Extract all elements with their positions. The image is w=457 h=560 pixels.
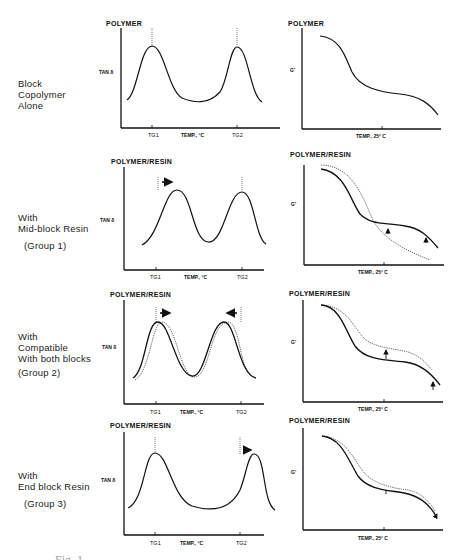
plot-title: POLYMER/RESIN <box>110 291 171 298</box>
y-axis-label: G' <box>291 201 296 207</box>
tick-label-tg1: TG1 <box>148 132 159 138</box>
figure-canvas: POLYMER TAN δ TG1 TEMP., °C TG2 POLYMER … <box>0 0 457 560</box>
x-axis-label: TEMP., °C <box>180 409 203 415</box>
plot-title: POLYMER/RESIN <box>289 417 350 424</box>
tick-label-tg1: TG1 <box>150 274 161 280</box>
y-axis-label: G' <box>290 67 295 73</box>
y-axis-label: G' <box>291 469 296 475</box>
tick-label-tg2: TG2 <box>237 274 248 280</box>
tick-label-tg2: TG2 <box>236 540 247 546</box>
plot-tan-delta-group2: POLYMER/RESIN TAN δ TG1 TEMP., °C TG2 <box>102 291 264 415</box>
tick-label-tg1: TG1 <box>150 540 161 546</box>
y-axis-label: G' <box>291 339 296 345</box>
plot-modulus-group2: POLYMER/RESIN G' TEMP., 25° C <box>289 290 443 412</box>
plot-title: POLYMER/RESIN <box>289 290 350 297</box>
y-axis-label: TAN δ <box>102 344 116 350</box>
tick-label-tg1: TG1 <box>150 409 161 415</box>
plot-title: POLYMER/RESIN <box>290 151 351 158</box>
plot-modulus-group1: POLYMER/RESIN G' TEMP., 25° C <box>290 151 444 275</box>
plot-title: POLYMER/RESIN <box>111 158 172 165</box>
x-axis-label: TEMP., 25° C <box>358 406 388 412</box>
figure-caption: Fig. 1 <box>55 553 83 560</box>
plot-title: POLYMER <box>288 20 324 27</box>
y-axis-label: TAN δ <box>101 477 115 483</box>
plot-tan-delta-polymer: POLYMER TAN δ TG1 TEMP., °C TG2 <box>99 20 280 138</box>
x-axis-label: TEMP., 25° C <box>358 269 388 275</box>
tick-label-tg2: TG2 <box>232 132 243 138</box>
x-axis-label: TEMP., 25° C <box>356 133 386 139</box>
x-axis-label: TEMP., 25° C <box>358 535 388 541</box>
plot-title: POLYMER/RESIN <box>110 422 171 429</box>
y-axis-label: TAN δ <box>99 69 113 75</box>
plot-title: POLYMER <box>106 20 142 27</box>
plot-modulus-polymer: POLYMER G' TEMP., 25° C <box>288 20 441 139</box>
x-axis-label: TEMP., °C <box>180 540 203 546</box>
y-axis-label: TAN δ <box>100 217 114 223</box>
x-axis-label: TEMP., °C <box>181 132 204 138</box>
x-axis-label: TEMP., °C <box>184 274 207 280</box>
plot-tan-delta-group1: POLYMER/RESIN TAN δ TG1 TEMP., °C TG2 <box>100 158 266 280</box>
plot-tan-delta-group3: POLYMER/RESIN TAN δ TG1 TEMP., °C TG2 <box>101 422 275 546</box>
tick-label-tg2: TG2 <box>236 409 247 415</box>
plot-modulus-group3: POLYMER/RESIN G' TEMP., 25° C <box>289 417 443 541</box>
